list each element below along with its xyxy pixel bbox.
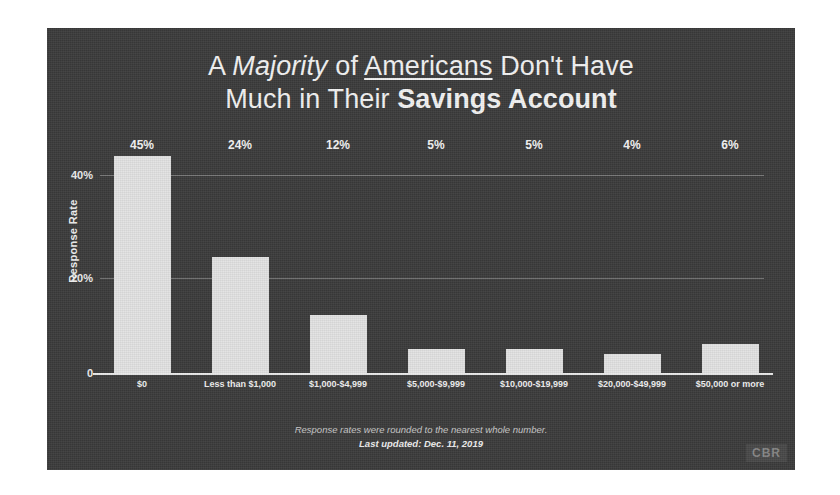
x-axis-baseline xyxy=(93,373,773,375)
x-axis-labels: $0 Less than $1,000 $1,000-$4,999 $5,000… xyxy=(100,379,772,390)
bar[interactable] xyxy=(310,315,367,373)
bar[interactable] xyxy=(408,349,465,373)
title-text-dont-have: Don't Have xyxy=(493,51,634,81)
bar-value-label: 45% xyxy=(130,138,154,152)
bar[interactable] xyxy=(506,349,563,373)
bar-slot[interactable]: 45% xyxy=(100,156,184,373)
chart-title: A Majority of Americans Don't Have Much … xyxy=(47,50,795,116)
title-text-savings-account: Savings Account xyxy=(397,84,617,114)
bar-slot[interactable]: 4% xyxy=(590,156,674,373)
title-text-a: A xyxy=(208,51,232,81)
bar-value-label: 6% xyxy=(721,138,738,152)
footnote-last-updated: Last updated: Dec. 11, 2019 xyxy=(47,437,795,451)
bar-slot[interactable]: 12% xyxy=(296,156,380,373)
x-tick-label: $1,000-$4,999 xyxy=(296,379,380,390)
watermark-logo: CBR xyxy=(746,444,787,462)
bar-slot[interactable]: 6% xyxy=(688,156,772,373)
footnote-block: Response rates were rounded to the neare… xyxy=(47,423,795,451)
x-tick-label: $50,000 or more xyxy=(688,379,772,390)
x-tick-label: $0 xyxy=(100,379,184,390)
title-text-majority: Majority xyxy=(232,51,327,81)
x-tick-label: $10,000-$19,999 xyxy=(492,379,576,390)
y-tick-label-40: 40% xyxy=(71,169,93,181)
bar-slot[interactable]: 5% xyxy=(492,156,576,373)
footnote-rounding: Response rates were rounded to the neare… xyxy=(47,423,795,437)
bar[interactable] xyxy=(702,344,759,373)
x-tick-label: $20,000-$49,999 xyxy=(590,379,674,390)
title-text-much-in-their: Much in Their xyxy=(225,84,397,114)
bar-series: 45% 24% 12% 5% 5% 4% xyxy=(100,156,772,373)
x-tick-label: Less than $1,000 xyxy=(198,379,282,390)
title-text-of: of xyxy=(328,51,364,81)
bar[interactable] xyxy=(114,156,171,373)
bar-slot[interactable]: 24% xyxy=(198,156,282,373)
bar[interactable] xyxy=(212,257,269,373)
chart-title-line-1: A Majority of Americans Don't Have xyxy=(47,50,795,83)
bar-slot[interactable]: 5% xyxy=(394,156,478,373)
bar-value-label: 4% xyxy=(623,138,640,152)
y-axis-title: Response Rate xyxy=(67,199,79,282)
bar-value-label: 12% xyxy=(326,138,350,152)
bar-value-label: 5% xyxy=(427,138,444,152)
x-tick-label: $5,000-$9,999 xyxy=(394,379,478,390)
bar-value-label: 24% xyxy=(228,138,252,152)
chart-panel: A Majority of Americans Don't Have Much … xyxy=(47,28,795,470)
slide-page: A Majority of Americans Don't Have Much … xyxy=(0,0,840,495)
bar-value-label: 5% xyxy=(525,138,542,152)
bar[interactable] xyxy=(604,354,661,373)
chart-title-line-2: Much in Their Savings Account xyxy=(47,83,795,116)
y-tick-label-20: 20% xyxy=(71,272,93,284)
title-text-americans: Americans xyxy=(364,51,492,81)
